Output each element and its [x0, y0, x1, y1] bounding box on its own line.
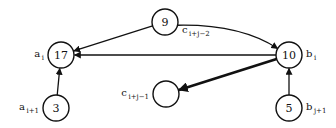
edge-n3-to-n17 — [57, 68, 60, 95]
node-value: 17 — [54, 49, 68, 62]
node-n17: 17ai — [34, 42, 74, 68]
node-value: 9 — [162, 16, 169, 29]
node-circle — [153, 81, 179, 107]
node-n5: 5bj+1 — [276, 95, 326, 121]
node-n9: 9ci+j−2 — [152, 9, 210, 38]
node-n10: 10bi — [276, 42, 317, 68]
tree-diagram: 17ai3ai+19ci+j−210bici+j−15bj+1 — [0, 0, 336, 128]
node-label: bi — [306, 48, 317, 62]
node-nempty: ci+j−1 — [121, 81, 179, 107]
edge-n9-to-n17 — [74, 26, 153, 51]
node-n3: 3ai+1 — [19, 95, 69, 121]
nodes-layer: 17ai3ai+19ci+j−210bici+j−15bj+1 — [19, 9, 326, 121]
node-value: 5 — [286, 102, 293, 115]
edge-n10-to-nempty — [179, 59, 277, 90]
node-value: 10 — [282, 49, 296, 62]
node-value: 3 — [53, 102, 60, 115]
node-label: ci+j−1 — [121, 87, 149, 101]
node-label: ai+1 — [19, 101, 39, 115]
node-label: bj+1 — [306, 101, 326, 115]
node-label: ai — [34, 48, 44, 62]
